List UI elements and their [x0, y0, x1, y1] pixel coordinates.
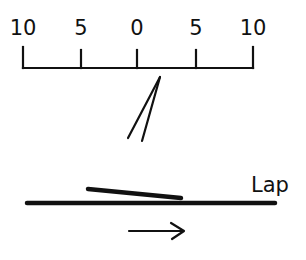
- pointer-line-right: [142, 77, 160, 141]
- lap-assembly: [27, 189, 275, 203]
- angle-pointer: [128, 77, 160, 141]
- lap-label: Lap: [251, 173, 289, 197]
- angle-scale: [23, 47, 253, 68]
- scale-label-zero: 0: [130, 16, 143, 40]
- fiber-bar: [88, 189, 181, 198]
- arrow-right-icon: [129, 223, 184, 239]
- scale-label-right-5: 5: [189, 16, 202, 40]
- lap-diagram: 10 5 0 5 10 Lap: [0, 0, 306, 260]
- pointer-line-left: [128, 77, 160, 138]
- scale-label-left-5: 5: [74, 16, 87, 40]
- scale-label-left-10: 10: [10, 16, 37, 40]
- scale-labels: 10 5 0 5 10: [10, 16, 267, 40]
- scale-label-right-10: 10: [240, 16, 267, 40]
